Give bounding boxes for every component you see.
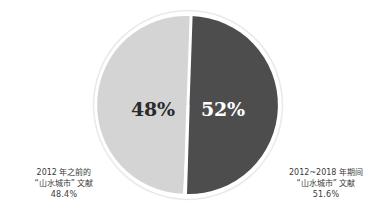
pie-caption-left-line2: “山水城市” 文献 [6,178,122,189]
pie-caption-left: 2012 年之前的 “山水城市” 文献 48.4% [6,167,122,200]
pie-caption-right-line1: 2012~2018 年期间 [268,167,384,178]
pie-slice-right-value: 52% [192,100,254,119]
pie-chart-figure: 48% 52% 2012 年之前的 “山水城市” 文献 48.4% 2012~2… [0,0,388,220]
pie-caption-right-percent: 51.6% [268,189,384,200]
pie-caption-right: 2012~2018 年期间 “山水城市” 文献 51.6% [268,167,384,200]
pie-caption-right-line2: “山水城市” 文献 [268,178,384,189]
pie-caption-left-line1: 2012 年之前的 [6,167,122,178]
pie-slice-left-value: 48% [122,100,184,119]
pie-caption-left-percent: 48.4% [6,189,122,200]
